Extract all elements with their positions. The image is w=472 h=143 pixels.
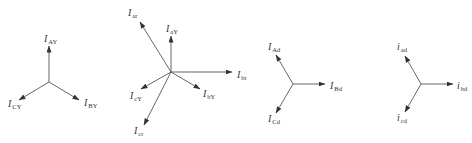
phasor-arrow-by	[171, 72, 200, 89]
phasor-arrow-ad	[405, 56, 421, 84]
phasor-label-ay: IaY	[165, 23, 178, 35]
phasor-panel-combined: IarIaYIbrIbYIcYIcr	[127, 7, 248, 137]
phasor-label-cd: icd	[397, 112, 408, 124]
phasor-label-ad: IAd	[267, 41, 281, 53]
phasor-label-cd: ICd	[267, 113, 281, 125]
phasor-panel-delta-currents: IAdIBdICd	[267, 41, 343, 125]
phasor-label-bd: ibd	[457, 80, 468, 92]
phasor-arrow-cd	[276, 84, 293, 113]
phasor-label-cy: IcY	[129, 90, 142, 102]
phasor-label-by: IBY	[83, 97, 98, 109]
phasor-arrow-cd	[405, 84, 421, 112]
phasor-label-ay: IAY	[43, 33, 57, 45]
phasor-label-br: Ibr	[236, 69, 248, 81]
phasor-label-cr: Icr	[133, 125, 144, 137]
phasor-arrow-ad	[276, 55, 293, 84]
phasor-label-ad: iad	[397, 41, 408, 53]
phasor-label-by: IbY	[202, 88, 216, 100]
phasor-arrow-by	[49, 82, 79, 100]
phasor-panel-delta-line-currents: iadibdicd	[397, 41, 468, 124]
phasor-label-ar: Iar	[127, 7, 138, 19]
phasor-diagram-canvas: IAYIBYICYIarIaYIbrIbYIcYIcrIAdIBdICdiadi…	[0, 0, 472, 143]
phasor-panel-star-currents: IAYIBYICY	[7, 33, 98, 110]
phasor-arrow-cy	[19, 82, 49, 100]
phasor-label-bd: IBd	[329, 80, 343, 92]
